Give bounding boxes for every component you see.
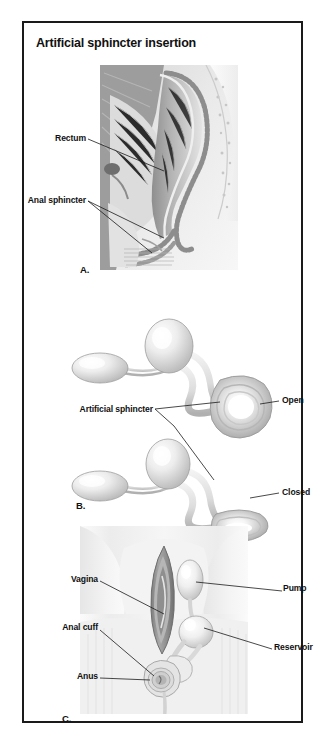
label-artificial-sphincter: Artificial sphincter xyxy=(80,404,153,414)
label-pump: Pump xyxy=(283,583,306,593)
panel-b: Artificial sphincter Open Closed B. xyxy=(24,308,301,523)
panel-b-artwork xyxy=(24,308,301,523)
label-closed: Closed xyxy=(282,487,310,497)
label-anal-sphincter: Anal sphincter xyxy=(28,195,86,205)
label-anal-cuff: Anal cuff xyxy=(62,622,98,632)
label-open: Open xyxy=(282,395,304,405)
panel-c-artwork xyxy=(24,518,301,723)
label-vagina: Vagina xyxy=(71,574,98,584)
page-title: Artificial sphincter insertion xyxy=(36,36,196,50)
panel-c: Vagina Pump Anal cuff Reservoir Anus C. xyxy=(24,518,301,723)
label-reservoir: Reservoir xyxy=(274,642,313,652)
label-anus: Anus xyxy=(77,671,98,681)
device-open xyxy=(72,319,272,438)
panel-a: Rectum Anal sphincter A. xyxy=(24,53,301,308)
panel-b-letter: B. xyxy=(76,500,86,511)
label-rectum: Rectum xyxy=(55,133,86,143)
panel-a-letter: A. xyxy=(80,264,90,275)
closed-leader xyxy=(250,493,279,498)
figure-frame: Artificial sphincter insertion xyxy=(22,21,303,723)
panel-a-artwork xyxy=(24,53,301,308)
panel-c-letter: C. xyxy=(62,713,72,724)
